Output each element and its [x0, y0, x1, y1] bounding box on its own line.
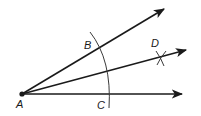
label-d: D	[151, 37, 159, 49]
ray-ab	[22, 9, 164, 94]
label-b: B	[84, 39, 91, 51]
vertex-point-a	[19, 91, 24, 96]
label-c: C	[97, 99, 105, 111]
angle-bisector-diagram: A B C D	[0, 0, 201, 116]
label-a: A	[15, 98, 23, 110]
intersection-arcs-d	[156, 51, 166, 66]
